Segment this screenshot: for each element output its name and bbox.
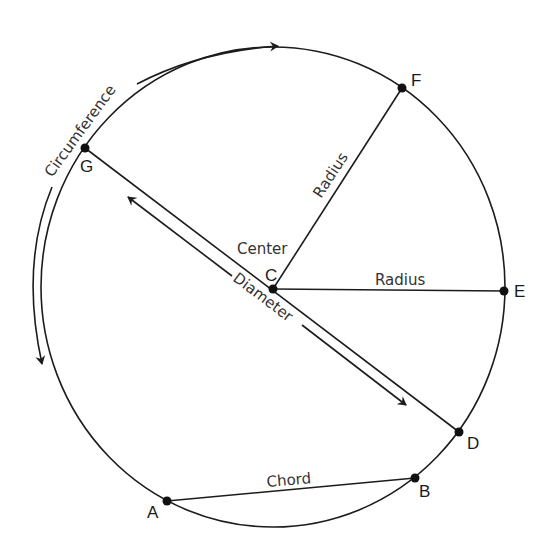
point-d-label: D bbox=[467, 434, 479, 453]
point-e-label: E bbox=[514, 282, 525, 301]
point-g-dot bbox=[81, 144, 90, 153]
point-e-dot bbox=[500, 287, 509, 296]
point-d-dot bbox=[455, 428, 464, 437]
point-g-label: G bbox=[80, 157, 93, 176]
point-f-dot bbox=[398, 84, 407, 93]
center-label: Center bbox=[237, 240, 288, 258]
radius-cf-line bbox=[273, 88, 402, 289]
point-c-dot bbox=[269, 285, 278, 294]
point-f-label: F bbox=[411, 71, 421, 90]
radius-ce-label: Radius bbox=[375, 271, 425, 289]
circle-diagram: Circumference Diameter Radius Radius Cho… bbox=[0, 0, 555, 551]
diameter-arrow-lower bbox=[302, 325, 406, 405]
circumference-arrow-left bbox=[33, 187, 52, 364]
point-c-label: C bbox=[265, 266, 277, 285]
diameter-label: Diameter bbox=[230, 269, 297, 326]
diameter-arrow-upper bbox=[128, 197, 232, 276]
radius-ce-line bbox=[273, 289, 504, 291]
point-a-dot bbox=[163, 497, 172, 506]
point-b-label: B bbox=[419, 482, 430, 501]
point-a-label: A bbox=[147, 503, 159, 522]
